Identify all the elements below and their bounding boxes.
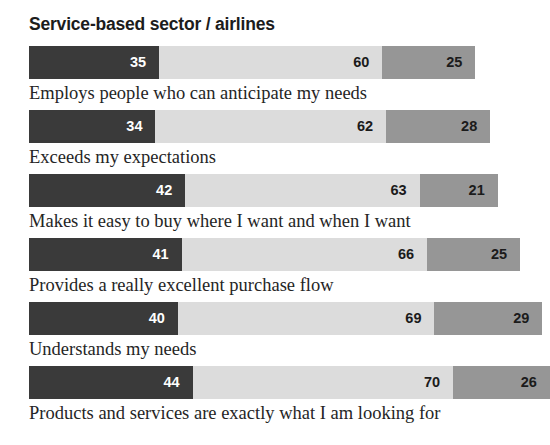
bar-group: 346228Exceeds my expectations — [0, 110, 550, 174]
bar-track: 356025 — [29, 46, 475, 79]
bar-segment-value: 26 — [521, 375, 550, 390]
chart-title: Service-based sector / airlines — [29, 14, 275, 35]
bar-segment-medium[interactable]: 29 — [434, 302, 542, 335]
bar-segment-value: 41 — [152, 247, 181, 262]
bar-segment-medium[interactable]: 25 — [427, 238, 520, 271]
bar-segment-dark[interactable]: 44 — [29, 366, 193, 399]
bar-segment-value: 29 — [513, 311, 542, 326]
stacked-bar-chart: Service-based sector / airlines 356025Em… — [0, 0, 550, 445]
bar-segment-value: 69 — [405, 311, 434, 326]
bar-track: 406929 — [29, 302, 542, 335]
bar-track: 426321 — [29, 174, 498, 207]
bar-segment-medium[interactable]: 25 — [382, 46, 475, 79]
bar-label: Provides a really excellent purchase flo… — [29, 272, 334, 300]
bar-segment-light[interactable]: 63 — [185, 174, 419, 207]
bar-track: 346228 — [29, 110, 490, 143]
bar-label: Makes it easy to buy where I want and wh… — [29, 208, 411, 236]
bar-groups-container: 356025Employs people who can anticipate … — [0, 46, 550, 430]
bar-segment-value: 28 — [461, 119, 490, 134]
bar-label: Products and services are exactly what I… — [29, 400, 441, 428]
bar-label: Exceeds my expectations — [29, 144, 216, 172]
bar-segment-dark[interactable]: 34 — [29, 110, 155, 143]
bar-segment-value: 42 — [156, 183, 185, 198]
bar-group: 416625Provides a really excellent purcha… — [0, 238, 550, 302]
bar-label: Employs people who can anticipate my nee… — [29, 80, 367, 108]
bar-segment-light[interactable]: 62 — [155, 110, 386, 143]
bar-segment-dark[interactable]: 40 — [29, 302, 178, 335]
bar-segment-light[interactable]: 70 — [193, 366, 453, 399]
bar-group: 426321Makes it easy to buy where I want … — [0, 174, 550, 238]
bar-segment-value: 21 — [469, 183, 498, 198]
bar-segment-value: 34 — [126, 119, 155, 134]
bar-group: 356025Employs people who can anticipate … — [0, 46, 550, 110]
bar-segment-dark[interactable]: 42 — [29, 174, 185, 207]
bar-segment-light[interactable]: 66 — [182, 238, 428, 271]
bar-segment-value: 40 — [149, 311, 178, 326]
bar-segment-dark[interactable]: 41 — [29, 238, 182, 271]
bar-segment-medium[interactable]: 28 — [386, 110, 490, 143]
bar-segment-value: 70 — [424, 375, 453, 390]
bar-group: 447026Products and services are exactly … — [0, 366, 550, 430]
bar-segment-value: 44 — [164, 375, 193, 390]
bar-segment-light[interactable]: 69 — [178, 302, 435, 335]
bar-group: 406929Understands my needs — [0, 302, 550, 366]
bar-segment-light[interactable]: 60 — [159, 46, 382, 79]
bar-track: 416625 — [29, 238, 520, 271]
bar-segment-value: 62 — [357, 119, 386, 134]
bar-segment-medium[interactable]: 21 — [420, 174, 498, 207]
bar-segment-value: 60 — [353, 55, 382, 70]
bar-segment-value: 25 — [446, 55, 475, 70]
bar-segment-medium[interactable]: 26 — [453, 366, 550, 399]
bar-segment-value: 66 — [398, 247, 427, 262]
bar-label: Understands my needs — [29, 336, 197, 364]
bar-segment-value: 63 — [390, 183, 419, 198]
bar-track: 447026 — [29, 366, 550, 399]
bar-segment-dark[interactable]: 35 — [29, 46, 159, 79]
bar-segment-value: 25 — [491, 247, 520, 262]
bar-segment-value: 35 — [130, 55, 159, 70]
